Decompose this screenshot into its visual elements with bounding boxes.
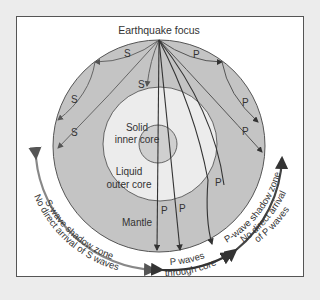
p-label: P xyxy=(161,205,168,216)
inner-core-label: Solid xyxy=(126,122,148,133)
earth-interior-diagram: Earthquake focus S S S S P P P P P P Sol… xyxy=(0,0,320,300)
s-label: S xyxy=(138,79,145,90)
p-label: P xyxy=(215,177,222,188)
p-label: P xyxy=(179,203,186,214)
outer-core-label: Liquid xyxy=(116,166,143,177)
outer-core-label: outer core xyxy=(106,179,151,190)
inner-core-label: inner core xyxy=(115,134,160,145)
focus-label: Earthquake focus xyxy=(118,24,200,36)
p-label: P xyxy=(242,97,249,108)
p-label: P xyxy=(193,49,200,60)
p-label: P xyxy=(242,126,249,137)
s-label: S xyxy=(71,94,78,105)
mantle-label: Mantle xyxy=(122,217,152,228)
s-label: S xyxy=(71,127,78,138)
s-label: S xyxy=(124,48,131,59)
